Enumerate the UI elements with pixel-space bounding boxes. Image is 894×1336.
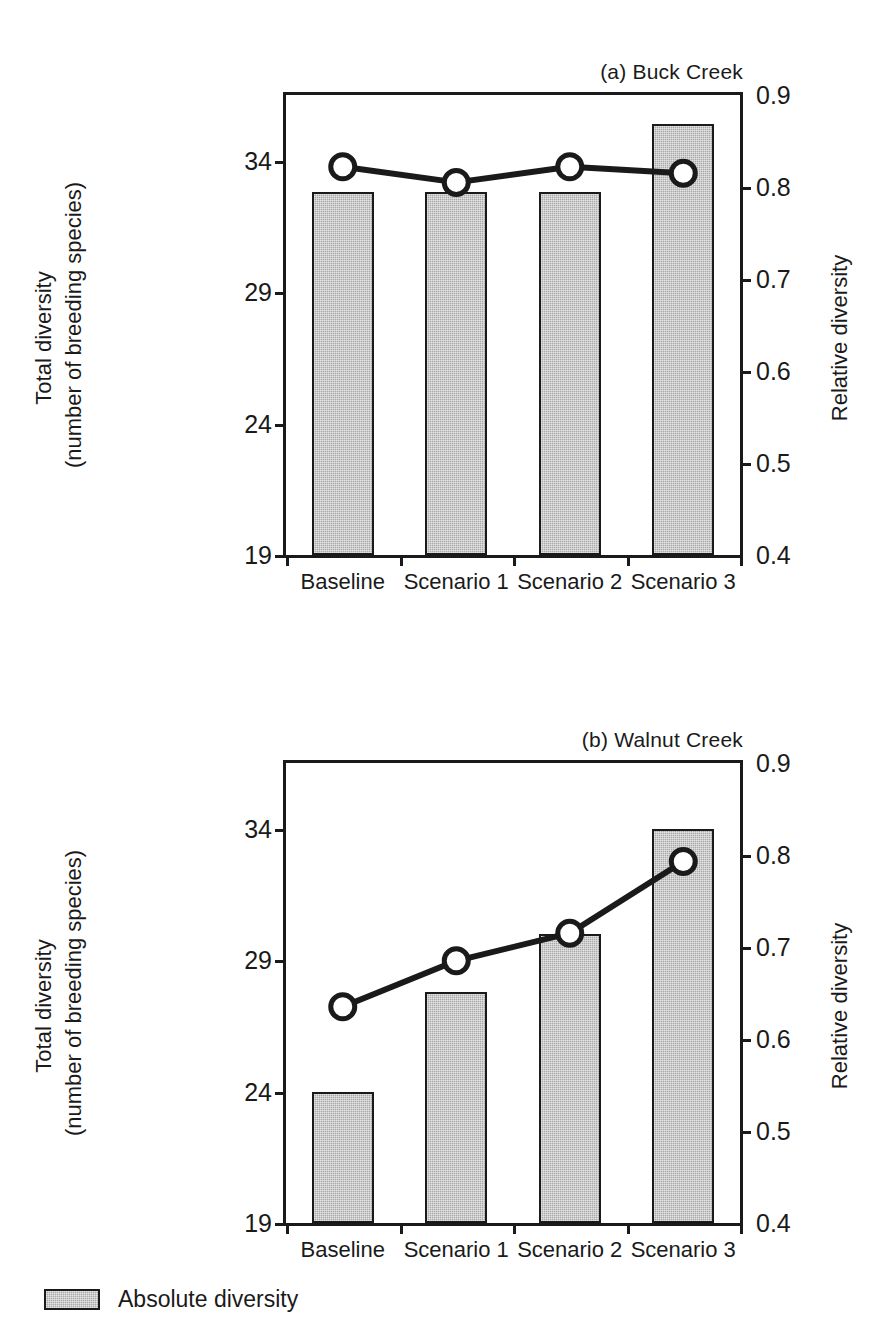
bar-a-2 <box>539 192 601 555</box>
x-tick-label-a-3: Scenario 3 <box>631 569 736 595</box>
x-tick-end-b-1 <box>740 1223 743 1234</box>
x-tick-label-b-2: Scenario 2 <box>517 1237 622 1263</box>
y2-tick-b-3 <box>740 947 751 950</box>
y-tick-a-3 <box>275 161 286 164</box>
y-tick-label-a-2: 29 <box>202 278 272 307</box>
legend-swatch-absolute-diversity <box>44 1289 100 1310</box>
y2-axis-title-a: Relative diversity <box>827 208 853 468</box>
x-tick-a-2 <box>513 555 516 566</box>
x-tick-label-a-2: Scenario 2 <box>517 569 622 595</box>
y2-axis-title-b: Relative diversity <box>827 876 853 1136</box>
y2-tick-b-2 <box>740 1039 751 1042</box>
x-tick-b-1 <box>400 1223 403 1234</box>
y-tick-label-b-0: 19 <box>202 1209 272 1238</box>
x-tick-label-b-1: Scenario 1 <box>404 1237 509 1263</box>
plot-frame-b: 192429340.40.50.60.70.80.9BaselineScenar… <box>283 760 743 1226</box>
y-tick-label-a-0: 19 <box>202 541 272 570</box>
line-path-a <box>343 167 684 183</box>
bar-b-3 <box>652 829 714 1223</box>
y2-tick-label-a-5: 0.9 <box>756 81 826 110</box>
marker-b-1 <box>444 949 468 973</box>
x-tick-label-a-0: Baseline <box>301 569 385 595</box>
y2-tick-a-1 <box>740 463 751 466</box>
x-tick-a-3 <box>627 555 630 566</box>
y-tick-b-2 <box>275 960 286 963</box>
y-tick-b-1 <box>275 1092 286 1095</box>
x-tick-b-2 <box>513 1223 516 1234</box>
y2-tick-label-b-5: 0.9 <box>756 749 826 778</box>
y2-tick-b-1 <box>740 1131 751 1134</box>
plot-area-b <box>286 763 740 1223</box>
y-axis-title-line1-b: Total diversity <box>31 876 57 1136</box>
x-tick-end-a-0 <box>286 555 289 566</box>
plot-area-a <box>286 95 740 555</box>
y2-tick-label-a-2: 0.6 <box>756 357 826 386</box>
bar-a-3 <box>652 124 714 555</box>
y-tick-label-a-3: 34 <box>202 146 272 175</box>
y-tick-b-3 <box>275 829 286 832</box>
marker-a-1 <box>444 170 468 194</box>
x-tick-end-b-0 <box>286 1223 289 1234</box>
y-tick-a-2 <box>275 292 286 295</box>
x-tick-b-3 <box>627 1223 630 1234</box>
y2-tick-b-4 <box>740 855 751 858</box>
x-tick-label-a-1: Scenario 1 <box>404 569 509 595</box>
y2-tick-label-a-0: 0.4 <box>756 541 826 570</box>
y-axis-title-line1-a: Total diversity <box>31 208 57 468</box>
y-axis-title-line2-a: (number of breeding species) <box>61 208 87 468</box>
y-tick-b-0 <box>275 1223 286 1226</box>
y-tick-a-0 <box>275 555 286 558</box>
y-axis-title-line2-b: (number of breeding species) <box>61 876 87 1136</box>
y2-tick-label-b-3: 0.7 <box>756 933 826 962</box>
y2-tick-a-2 <box>740 371 751 374</box>
plot-frame-a: 192429340.40.50.60.70.80.9BaselineScenar… <box>283 92 743 558</box>
y2-tick-label-b-1: 0.5 <box>756 1117 826 1146</box>
x-tick-label-b-0: Baseline <box>301 1237 385 1263</box>
y2-tick-label-b-4: 0.8 <box>756 841 826 870</box>
marker-a-2 <box>558 155 582 179</box>
y2-tick-label-b-2: 0.6 <box>756 1025 826 1054</box>
marker-b-0 <box>331 995 355 1019</box>
bar-b-0 <box>312 1092 374 1223</box>
y-tick-label-b-2: 29 <box>202 946 272 975</box>
bar-a-0 <box>312 192 374 555</box>
line-path-b <box>343 861 684 1006</box>
y-tick-a-1 <box>275 424 286 427</box>
x-tick-a-1 <box>400 555 403 566</box>
y2-tick-label-a-4: 0.8 <box>756 173 826 202</box>
y-tick-label-b-1: 24 <box>202 1077 272 1106</box>
bar-b-2 <box>539 934 601 1223</box>
y2-tick-label-a-1: 0.5 <box>756 449 826 478</box>
bar-b-1 <box>425 992 487 1223</box>
y2-tick-label-a-3: 0.7 <box>756 265 826 294</box>
bar-a-1 <box>425 192 487 555</box>
clipped-running-header <box>0 0 894 4</box>
y-tick-label-a-1: 24 <box>202 409 272 438</box>
legend: Absolute diversity <box>44 1286 298 1313</box>
figure-root: (a) Buck Creek 192429340.40.50.60.70.80.… <box>0 0 894 1336</box>
x-tick-end-a-1 <box>740 555 743 566</box>
panel-a-title: (a) Buck Creek <box>283 60 743 84</box>
legend-label-absolute-diversity: Absolute diversity <box>118 1286 298 1313</box>
y2-tick-a-4 <box>740 187 751 190</box>
y2-tick-a-3 <box>740 279 751 282</box>
x-tick-label-b-3: Scenario 3 <box>631 1237 736 1263</box>
y-tick-label-b-3: 34 <box>202 814 272 843</box>
marker-a-0 <box>331 155 355 179</box>
y2-tick-label-b-0: 0.4 <box>756 1209 826 1238</box>
panel-b-title: (b) Walnut Creek <box>283 728 743 752</box>
